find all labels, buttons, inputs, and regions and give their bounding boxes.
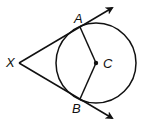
- label-a: A: [74, 12, 83, 25]
- radius-ca: [80, 27, 96, 63]
- label-x: X: [6, 56, 15, 69]
- label-b: B: [72, 102, 81, 115]
- diagram: X A B C: [0, 0, 148, 121]
- tangent-ray-xb: [19, 63, 112, 118]
- center-point: [94, 61, 98, 65]
- label-c: C: [103, 57, 112, 70]
- tangent-ray-xa: [19, 8, 112, 63]
- radius-cb: [80, 63, 96, 99]
